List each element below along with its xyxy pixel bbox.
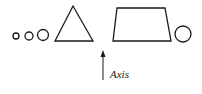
small-circle-1-shape <box>13 33 19 39</box>
right-circle-shape <box>175 26 191 42</box>
triangle-shape <box>55 6 93 41</box>
axis-label: Axis <box>110 68 129 80</box>
small-circle-2-shape <box>25 32 33 40</box>
trapezoid-shape <box>113 8 171 41</box>
small-circle-3-shape <box>38 30 49 41</box>
shapes-sequence <box>0 0 202 94</box>
axis-arrow-icon <box>101 50 106 80</box>
diagram-canvas: Axis <box>0 0 202 94</box>
